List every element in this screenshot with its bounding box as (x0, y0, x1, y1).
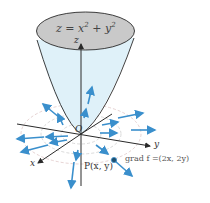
x-axis-label: x (30, 159, 35, 168)
y-axis-label: y (154, 140, 159, 149)
surface-equation-label: z = x2 + y2 (56, 22, 116, 34)
x-axis (38, 134, 81, 163)
paraboloid-surface (37, 38, 134, 134)
point-p-label: P(x, y) (84, 162, 113, 171)
origin-label: O (75, 125, 82, 134)
z-axis-label: z (74, 36, 79, 45)
gradient-label: grad f =(2x, 2y) (125, 155, 189, 163)
